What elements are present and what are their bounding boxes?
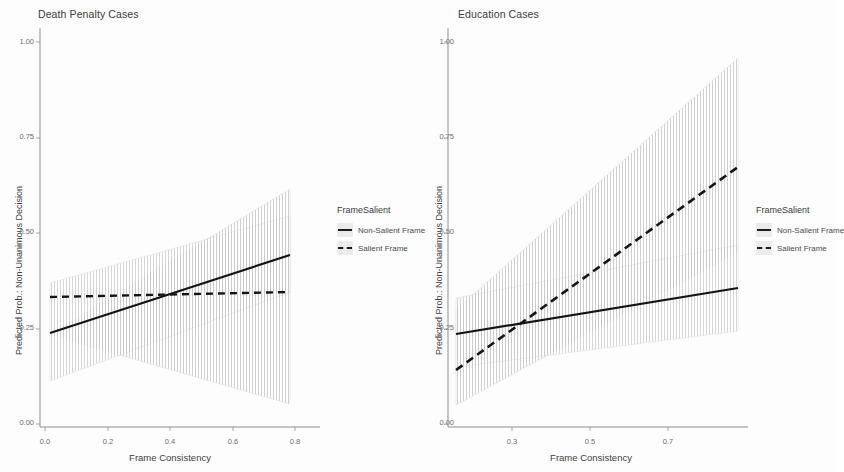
legend-title-left: FrameSalient xyxy=(337,205,391,215)
legend-label-left-nonsalient: Non-Salient Frame xyxy=(358,226,425,235)
legend-title-right: FrameSalient xyxy=(756,205,810,215)
legend-entry-right-salient[interactable]: Salient Frame xyxy=(756,241,827,255)
facet-panel-death-penalty: Death Penalty Cases Predicted Prob.: Non… xyxy=(0,0,418,472)
legend-label-right-nonsalient: Non-Salient Frame xyxy=(777,226,844,235)
legend-label-right-salient: Salient Frame xyxy=(777,244,827,253)
legend-key-solid-line-icon xyxy=(337,223,353,237)
facet-panel-education: Education Cases Predicted Prob.: Non-Una… xyxy=(418,0,836,472)
legend-entry-right-nonsalient[interactable]: Non-Salient Frame xyxy=(756,223,844,237)
legend-key-dashed-line-icon xyxy=(756,241,772,255)
legend-key-dashed-line-icon xyxy=(337,241,353,255)
legend-label-left-salient: Salient Frame xyxy=(358,244,408,253)
legend-entry-left-nonsalient[interactable]: Non-Salient Frame xyxy=(337,223,425,237)
legend-entry-left-salient[interactable]: Salient Frame xyxy=(337,241,408,255)
legend-key-solid-line-icon xyxy=(756,223,772,237)
